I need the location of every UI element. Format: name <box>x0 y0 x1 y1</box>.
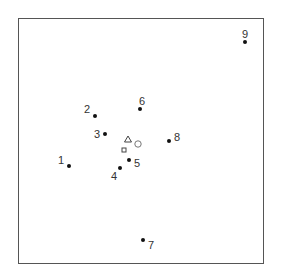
point-8-dot <box>167 139 171 143</box>
point-9-dot <box>243 40 247 44</box>
plot-frame <box>18 18 264 264</box>
point-8-label: 8 <box>174 132 180 143</box>
point-6-dot <box>138 107 142 111</box>
point-7-label: 7 <box>148 240 154 251</box>
point-1-label: 1 <box>58 155 64 166</box>
point-5-dot <box>127 158 131 162</box>
point-2-label: 2 <box>84 104 90 115</box>
point-9-label: 9 <box>242 29 248 40</box>
point-4-dot <box>118 166 122 170</box>
point-4-label: 4 <box>111 171 117 182</box>
point-1-dot <box>67 164 71 168</box>
point-3-label: 3 <box>94 129 100 140</box>
point-6-label: 6 <box>139 96 145 107</box>
point-5-label: 5 <box>134 158 140 169</box>
point-7-dot <box>141 238 145 242</box>
point-3-dot <box>103 132 107 136</box>
point-2-dot <box>93 114 97 118</box>
